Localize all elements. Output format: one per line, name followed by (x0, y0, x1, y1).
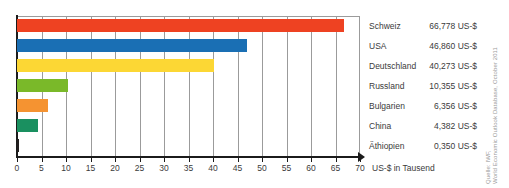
x-tick-label: 30 (152, 163, 176, 173)
x-tick (287, 158, 288, 162)
legend-label: Deutschland (369, 56, 416, 76)
x-tick (140, 158, 141, 162)
x-tick (262, 158, 263, 162)
legend-row: Deutschland40,273 US-$ (369, 56, 477, 76)
x-tick-label: 70 (348, 163, 372, 173)
x-tick (91, 158, 92, 162)
bar (17, 59, 214, 72)
x-tick-label: 50 (250, 163, 274, 173)
bar (17, 79, 68, 92)
x-tick (189, 158, 190, 162)
legend-label: Bulgarien (369, 96, 405, 116)
legend-label: Schweiz (369, 16, 401, 36)
bar (17, 19, 344, 32)
x-tick-label: 65 (324, 163, 348, 173)
x-tick-label: 35 (177, 163, 201, 173)
x-tick (213, 158, 214, 162)
x-tick (238, 158, 239, 162)
x-tick-label: 20 (103, 163, 127, 173)
x-tick (17, 158, 18, 162)
legend-row: Russland10,355 US-$ (369, 76, 477, 96)
x-tick (66, 158, 67, 162)
legend-row: China4,382 US-$ (369, 116, 477, 136)
x-tick-label: 60 (299, 163, 323, 173)
legend: Schweiz66,778 US-$USA46,860 US-$Deutschl… (369, 16, 477, 156)
x-tick (336, 158, 337, 162)
bar (17, 119, 38, 132)
x-tick-label: 45 (226, 163, 250, 173)
x-tick-label: 0 (5, 163, 29, 173)
source-note: Quelle: IWF, World Economic Outlook Data… (470, 0, 509, 188)
x-tick-label: 55 (275, 163, 299, 173)
x-tick-label: 15 (79, 163, 103, 173)
x-tick (42, 158, 43, 162)
x-tick (311, 158, 312, 162)
bar (17, 139, 19, 152)
x-tick-label: 10 (54, 163, 78, 173)
legend-label: Russland (369, 76, 404, 96)
legend-row: Äthiopien0,350 US-$ (369, 136, 477, 156)
x-tick-label: 5 (30, 163, 54, 173)
bar (17, 39, 247, 52)
legend-row: Bulgarien6,356 US-$ (369, 96, 477, 116)
x-axis-title: US-$ in Tausend (372, 163, 435, 173)
legend-row: USA46,860 US-$ (369, 36, 477, 56)
bar-chart: 0510152025303540455055606570 US-$ in Tau… (0, 0, 509, 188)
bar (17, 99, 48, 112)
x-tick-label: 40 (201, 163, 225, 173)
source-line: Quelle: IWF, (485, 150, 491, 184)
x-tick (360, 158, 361, 162)
legend-label: China (369, 116, 391, 136)
source-line: World Economic Outlook Database, October… (492, 47, 498, 184)
x-tick (115, 158, 116, 162)
legend-label: USA (369, 36, 386, 56)
x-tick-label: 25 (128, 163, 152, 173)
x-tick (164, 158, 165, 162)
legend-row: Schweiz66,778 US-$ (369, 16, 477, 36)
legend-label: Äthiopien (369, 136, 404, 156)
